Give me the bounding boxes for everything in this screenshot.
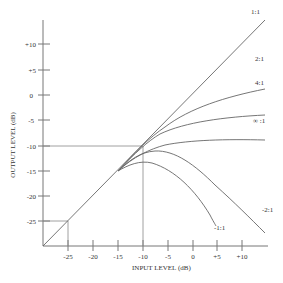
x-tick-label: -5 <box>165 253 171 261</box>
label-2-to-1: 2:1 <box>255 55 264 63</box>
x-tick-label: -10 <box>138 253 148 261</box>
y-tick-label: +10 <box>25 41 36 49</box>
x-tick-label: +5 <box>213 253 221 261</box>
y-tick-label: -25 <box>27 218 37 226</box>
y-tick-label: -10 <box>27 143 37 151</box>
y-ticks <box>38 44 50 221</box>
x-tick-label: +10 <box>237 253 248 261</box>
label-neg2-to-1: -2:1 <box>262 206 274 214</box>
x-tick-labels: -25 -20 -15 -10 -5 0 +5 +10 <box>63 253 248 261</box>
y-axis-title: OUTPUT LEVEL (dB) <box>9 111 17 177</box>
y-tick-label: -5 <box>28 117 34 125</box>
x-tick-label: -15 <box>113 253 123 261</box>
y-tick-labels: +10 +5 0 -5 -10 -15 -20 -25 <box>25 41 36 226</box>
transfer-curves <box>43 20 265 246</box>
y-tick-label: +5 <box>29 67 37 75</box>
curve-1-to-1 <box>43 20 265 246</box>
x-tick-label: -20 <box>88 253 98 261</box>
y-tick-label: 0 <box>30 92 34 100</box>
label-neg1-to-1: -1:1 <box>214 224 226 232</box>
compressor-transfer-chart: +10 +5 0 -5 -10 -15 -20 -25 -25 -20 -15 … <box>0 0 283 283</box>
x-axis-title: INPUT LEVEL (dB) <box>132 264 191 272</box>
curve-2-to-1 <box>118 89 265 171</box>
y-tick-label: -20 <box>27 193 37 201</box>
label-inf-to-1: ∞ :1 <box>253 117 266 125</box>
curve-neg2-to-1 <box>118 151 265 233</box>
curve-inf-to-1 <box>118 140 265 171</box>
y-tick-label: -15 <box>27 168 37 176</box>
label-1-to-1: 1:1 <box>251 8 260 16</box>
label-4-to-1: 4:1 <box>255 79 264 87</box>
x-tick-label: 0 <box>191 253 195 261</box>
chart-svg: +10 +5 0 -5 -10 -15 -20 -25 -25 -20 -15 … <box>0 0 283 283</box>
x-tick-label: -25 <box>63 253 73 261</box>
